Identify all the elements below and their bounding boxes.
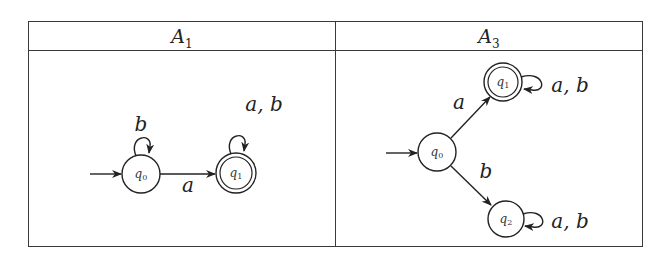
state-q1-accepting: q1 [216, 153, 256, 193]
transition-label: a [182, 173, 194, 197]
transition-label: a, b [551, 209, 588, 233]
transition-label: a, b [245, 92, 282, 116]
automaton-a3: q0 a b q1 a, b q2 a, b [386, 63, 589, 237]
state-q0: q0 [122, 155, 160, 193]
self-loop-q2 [523, 213, 543, 228]
automaton-a1: q0 b a q1 a, b [90, 92, 283, 197]
self-loop-q0 [134, 138, 150, 156]
transition-label: a, b [551, 73, 588, 97]
self-loop-q1 [521, 76, 542, 91]
transition-label: a [453, 90, 465, 114]
automata-diagrams: q0 b a q1 a, b q0 a b [0, 0, 672, 268]
state-q0: q0 [418, 133, 456, 171]
self-loop-q1 [229, 136, 245, 154]
transition-label: b [135, 112, 148, 136]
state-q1-accepting: q1 [484, 63, 522, 101]
transition-label: b [480, 159, 493, 183]
state-q2: q2 [488, 201, 524, 237]
